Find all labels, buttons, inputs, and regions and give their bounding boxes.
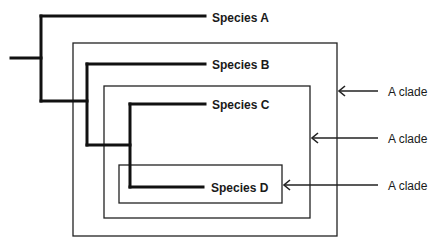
cladogram-diagram: Species A Species B Species C Species D … — [0, 0, 435, 243]
clade-label-outer: A clade — [388, 85, 428, 99]
clade-box-outer — [73, 43, 337, 236]
arrow-outer-clade — [339, 86, 378, 96]
species-c-label: Species C — [212, 98, 270, 112]
tree-branches — [11, 16, 205, 187]
species-d-label: Species D — [211, 181, 269, 195]
arrow-inner-clade — [284, 180, 378, 190]
species-a-label: Species A — [212, 11, 269, 25]
arrow-middle-clade — [312, 133, 378, 143]
clade-box-middle — [104, 86, 310, 218]
clade-label-inner: A clade — [388, 179, 428, 193]
cladogram-canvas: Species A Species B Species C Species D … — [0, 0, 435, 243]
species-b-label: Species B — [212, 58, 270, 72]
clade-label-middle: A clade — [388, 132, 428, 146]
